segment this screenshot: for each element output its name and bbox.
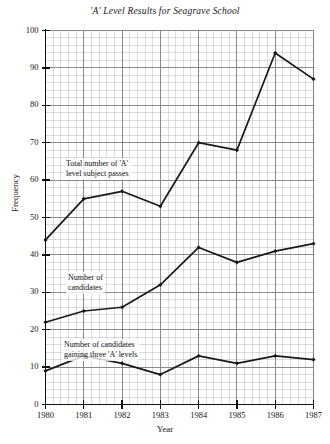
x-tick-label: 1986 — [258, 410, 292, 420]
data-point — [273, 249, 277, 253]
y-tick-label: 20 — [13, 324, 39, 334]
x-tick-label: 1983 — [143, 410, 177, 420]
x-tick-label: 1984 — [182, 410, 216, 420]
data-point — [82, 309, 86, 313]
y-tick-label: 90 — [13, 62, 39, 72]
x-tick-label: 1981 — [67, 410, 101, 420]
data-point — [43, 320, 47, 324]
y-tick-label: 50 — [13, 212, 39, 222]
data-point — [311, 358, 315, 362]
plot-area — [0, 0, 330, 444]
x-tick-label: 1985 — [220, 410, 254, 420]
data-point — [235, 361, 239, 365]
annotation-series-0: Total number of 'A' level subject passes — [64, 158, 131, 180]
annotation-series-2: Number of candidates gaining three 'A' l… — [62, 339, 139, 361]
x-tick-label: 1982 — [105, 410, 139, 420]
x-tick-label: 1980 — [29, 410, 63, 420]
y-tick-label: 40 — [13, 249, 39, 259]
y-tick-label: 60 — [13, 174, 39, 184]
data-point — [120, 361, 124, 365]
y-tick-label: 80 — [13, 99, 39, 109]
data-point — [311, 242, 315, 246]
data-point — [273, 354, 277, 358]
y-tick-label: 0 — [13, 399, 39, 409]
annotation-series-1: Number of candidates — [66, 272, 105, 294]
y-tick-label: 70 — [13, 137, 39, 147]
chart-container: 'A' Level Results for Seagrave School Fr… — [0, 0, 330, 444]
y-tick-label: 30 — [13, 286, 39, 296]
y-tick-label: 10 — [13, 361, 39, 371]
y-tick-label: 100 — [13, 25, 39, 35]
x-tick-label: 1987 — [297, 410, 330, 420]
